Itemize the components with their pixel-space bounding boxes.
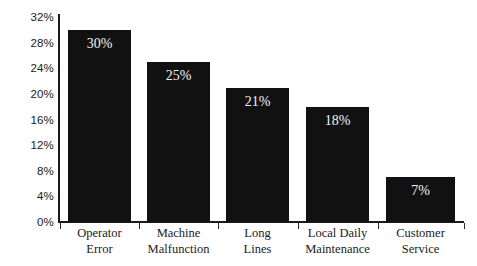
category-label-line: Service	[376, 242, 465, 258]
bar: 25%	[147, 62, 210, 222]
category-label-line: Error	[58, 242, 141, 258]
bar: 7%	[386, 177, 455, 222]
bar: 18%	[306, 107, 369, 222]
x-axis-tick-mark	[139, 223, 140, 229]
category-label: OperatorError	[58, 226, 141, 257]
category-label-line: Long	[216, 226, 299, 242]
bar-value-label: 25%	[147, 68, 210, 84]
bar-chart: 32%28%24%20%16%12%8%4%0% 30%25%21%18%7% …	[0, 0, 477, 266]
x-axis-tick-mark	[464, 223, 465, 229]
bar: 30%	[68, 30, 131, 222]
category-label-line: Customer	[376, 226, 465, 242]
category-label-line: Lines	[216, 242, 299, 258]
category-label-line: Operator	[58, 226, 141, 242]
plot-area: 32%28%24%20%16%12%8%4%0% 30%25%21%18%7% …	[0, 0, 477, 266]
category-label: MachineMalfunction	[137, 226, 220, 257]
x-axis-tick-mark	[218, 223, 219, 229]
x-axis-tick-mark	[378, 223, 379, 229]
category-label-line: Maintenance	[296, 242, 379, 258]
category-label: CustomerService	[376, 226, 465, 257]
bar: 21%	[226, 88, 289, 222]
bar-value-label: 7%	[386, 183, 455, 199]
category-label-line: Local Daily	[296, 226, 379, 242]
bar-value-label: 18%	[306, 113, 369, 129]
category-label: Local DailyMaintenance	[296, 226, 379, 257]
bar-value-label: 21%	[226, 94, 289, 110]
x-axis-tick-mark	[298, 223, 299, 229]
category-label: LongLines	[216, 226, 299, 257]
x-axis-tick-mark	[60, 223, 61, 229]
category-label-line: Machine	[137, 226, 220, 242]
x-axis-category-labels: OperatorErrorMachineMalfunctionLongLines…	[0, 226, 477, 266]
category-label-line: Malfunction	[137, 242, 220, 258]
bar-value-label: 30%	[68, 36, 131, 52]
